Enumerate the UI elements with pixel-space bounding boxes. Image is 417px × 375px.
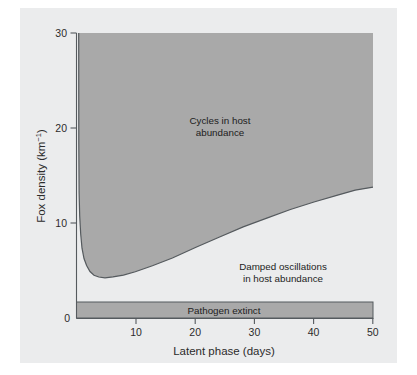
x-ticklabel-30: 30 [249, 326, 261, 338]
x-ticklabel-10: 10 [130, 326, 142, 338]
y-ticklabel-20: 20 [55, 122, 67, 134]
y-axis-title: Fox density (km−1) [34, 129, 47, 223]
x-ticklabel-50: 50 [367, 326, 379, 338]
x-ticklabel-40: 40 [308, 326, 320, 338]
cycles-region-label-line1: Cycles in host [190, 115, 251, 126]
x-ticklabel-20: 20 [189, 326, 201, 338]
plot-area: 30 20 10 0 10 20 30 40 50 Latent phase (… [0, 0, 417, 375]
y-ticklabel-30: 30 [55, 27, 67, 39]
y-ticklabel-0: 0 [64, 312, 70, 324]
chart-svg: 30 20 10 0 10 20 30 40 50 Latent phase (… [0, 0, 417, 375]
pathogen-extinct-label: Pathogen extinct [188, 305, 261, 316]
figure-container: 30 20 10 0 10 20 30 40 50 Latent phase (… [0, 0, 417, 375]
x-axis-title: Latent phase (days) [173, 345, 275, 357]
y-axis-title-superscript: −1 [34, 133, 43, 142]
y-ticklabel-10: 10 [55, 217, 67, 229]
damped-region-label-line2: in host abundance [243, 273, 324, 284]
y-axis-title-group: Fox density (km−1) [34, 129, 47, 223]
y-axis-title-main: Fox density (km [35, 142, 47, 223]
y-axis-title-close: ) [35, 129, 47, 133]
damped-region-label-line1: Damped oscillations [239, 261, 327, 272]
cycles-region-shape [79, 33, 373, 278]
cycles-region-label-line2: abundance [196, 127, 245, 138]
